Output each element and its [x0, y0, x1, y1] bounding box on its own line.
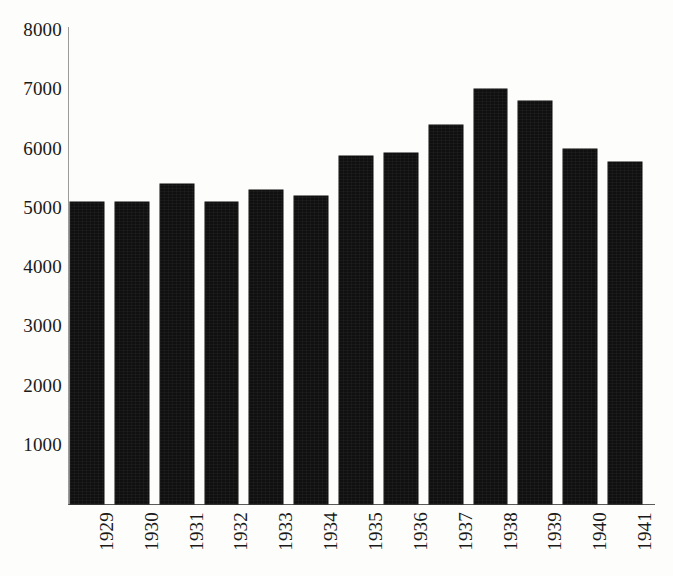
bar — [474, 89, 508, 504]
x-axis-line — [68, 504, 655, 505]
bar — [608, 162, 642, 504]
y-axis-tick-label: 3000 — [0, 315, 62, 337]
y-axis-tick-label: 7000 — [0, 78, 62, 100]
bar — [115, 202, 149, 504]
bar — [160, 184, 194, 504]
x-axis-tick-label: 1937 — [455, 512, 477, 551]
y-axis-line — [68, 27, 69, 505]
x-axis-tick-label: 1933 — [275, 512, 297, 551]
y-axis-tick-label: 6000 — [0, 138, 62, 160]
x-axis-tick-label: 1940 — [589, 512, 611, 551]
x-axis-tick-label: 1938 — [500, 512, 522, 551]
bar — [384, 153, 418, 504]
bar — [339, 156, 373, 504]
x-axis-tick-label: 1936 — [410, 512, 432, 551]
bar — [70, 202, 104, 504]
bar — [429, 125, 463, 504]
y-axis-tick-label: 8000 — [0, 19, 62, 41]
x-axis-tick-label: 1939 — [544, 512, 566, 551]
y-axis-tick-label: 2000 — [0, 375, 62, 397]
x-axis-tick-label: 1929 — [96, 512, 118, 551]
x-axis-tick-label: 1931 — [186, 512, 208, 551]
bar — [205, 202, 239, 504]
x-axis-tick-label: 1934 — [320, 512, 342, 551]
y-axis-tick-label: 5000 — [0, 197, 62, 219]
bar-chart: 10002000300040005000600070008000 1929193… — [0, 0, 673, 576]
y-axis-tick-label: 4000 — [0, 256, 62, 278]
bar — [518, 101, 552, 504]
bar — [249, 190, 283, 504]
x-axis-tick-label: 1941 — [634, 512, 656, 551]
plot-area: 10002000300040005000600070008000 1929193… — [0, 0, 673, 576]
bar — [294, 196, 328, 504]
x-axis-tick-label: 1932 — [230, 512, 252, 551]
bar — [563, 149, 597, 505]
x-axis-tick-label: 1930 — [141, 512, 163, 551]
y-axis-tick-label: 1000 — [0, 434, 62, 456]
x-axis-tick-label: 1935 — [365, 512, 387, 551]
